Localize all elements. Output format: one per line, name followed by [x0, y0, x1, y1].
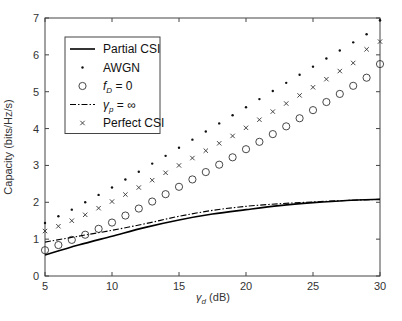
awgn-dot	[272, 90, 274, 92]
fd0-circle	[242, 146, 249, 153]
y-axis-title: Capacity (bits/Hz/s)	[2, 99, 14, 194]
fd0-circle	[175, 183, 182, 190]
awgn-dot	[44, 222, 46, 224]
fd0-circle	[336, 90, 343, 97]
legend-label: Perfect CSI	[103, 116, 164, 130]
awgn-dot	[191, 138, 193, 140]
awgn-dot	[285, 82, 287, 84]
fd0-circle	[108, 219, 115, 226]
y-tick-label: 6	[33, 49, 39, 61]
y-tick-label: 4	[33, 123, 39, 135]
awgn-dot	[312, 65, 314, 67]
y-tick-label: 0	[33, 270, 39, 282]
awgn-dot	[178, 147, 180, 149]
fd0-circle	[216, 161, 223, 168]
awgn-dot	[325, 57, 327, 59]
awgn-dot	[365, 33, 367, 35]
fd0-circle	[269, 131, 276, 138]
awgn-dot	[352, 41, 354, 43]
awgn-dot	[84, 201, 86, 203]
awgn-dot	[245, 106, 247, 108]
x-tick-label: 30	[374, 280, 386, 292]
fd0-circle	[309, 107, 316, 114]
gamma-p-inf-line	[45, 199, 380, 242]
fd0-circle	[122, 212, 129, 219]
y-tick-label: 2	[33, 196, 39, 208]
series-dash-dot-line	[45, 199, 380, 242]
fd0-circle	[363, 74, 370, 81]
fd0-circle	[95, 225, 102, 232]
awgn-dot	[258, 98, 260, 100]
awgn-dot	[379, 19, 381, 21]
y-tick-label: 7	[33, 12, 39, 24]
x-axis-title: γd (dB)	[196, 291, 230, 306]
fd0-circle	[350, 82, 357, 89]
x-tick-label: 5	[42, 280, 48, 292]
fd0-circle	[296, 115, 303, 122]
x-tick-label: 25	[307, 280, 319, 292]
legend-label: AWGN	[103, 61, 140, 75]
awgn-dot	[138, 170, 140, 172]
awgn-dot	[205, 130, 207, 132]
y-tick-label: 1	[33, 233, 39, 245]
legend-label: Partial CSI	[103, 42, 160, 56]
awgn-dot	[218, 122, 220, 124]
capacity-chart: 5101520253001234567 Capacity (bits/Hz/s)…	[0, 0, 402, 321]
x-tick-label: 20	[240, 280, 252, 292]
legend: Partial CSIAWGNfD = 0γp = ∞Perfect CSI	[65, 37, 164, 134]
awgn-dot	[111, 186, 113, 188]
y-tick-label: 3	[33, 159, 39, 171]
awgn-dot	[339, 49, 341, 51]
fd0-circle	[149, 198, 156, 205]
fd0-circle	[189, 176, 196, 183]
awgn-dot	[151, 162, 153, 164]
x-tick-label: 10	[106, 280, 118, 292]
fd0-circle	[229, 154, 236, 161]
awgn-dot	[57, 215, 59, 217]
fd0-circle	[323, 98, 330, 105]
fd0-circle	[162, 191, 169, 198]
awgn-dot	[97, 194, 99, 196]
y-tick-label: 5	[33, 86, 39, 98]
fd0-circle	[256, 138, 263, 145]
awgn-dot	[298, 74, 300, 76]
awgn-dot	[71, 208, 73, 210]
awgn-dot	[164, 155, 166, 157]
fd0-circle	[202, 168, 209, 175]
awgn-dot	[81, 66, 83, 68]
fd0-circle	[283, 123, 290, 130]
x-tick-label: 15	[173, 280, 185, 292]
legend-label: γp = ∞	[103, 98, 136, 114]
fd0-circle	[135, 205, 142, 212]
awgn-dot	[124, 178, 126, 180]
fd0-circle	[55, 241, 62, 248]
awgn-dot	[231, 114, 233, 116]
